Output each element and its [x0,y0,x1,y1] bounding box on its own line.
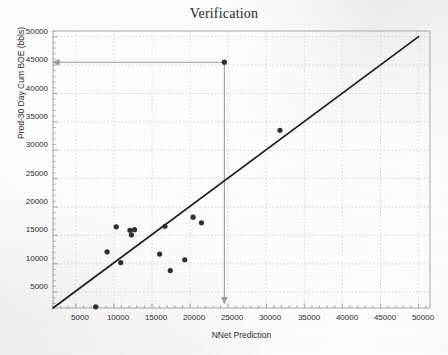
plot-canvas [0,0,448,355]
data-point [129,232,134,237]
one-to-one-reference-line [53,37,419,308]
data-point [114,224,119,229]
data-point [118,260,123,265]
data-point [104,249,109,254]
data-point [191,215,196,220]
data-points [93,60,283,310]
data-point [162,224,167,229]
annotation-arrows [53,62,224,303]
data-point [157,251,162,256]
scatter-chart-figure: Verification Prod-30 Day Cum BOE (bbls) … [0,0,448,355]
data-point [127,228,132,233]
data-point [277,128,282,133]
data-point [168,268,173,273]
data-point [222,60,227,65]
data-point [132,227,137,232]
data-point [93,304,98,309]
data-point [199,220,204,225]
data-point [182,257,187,262]
